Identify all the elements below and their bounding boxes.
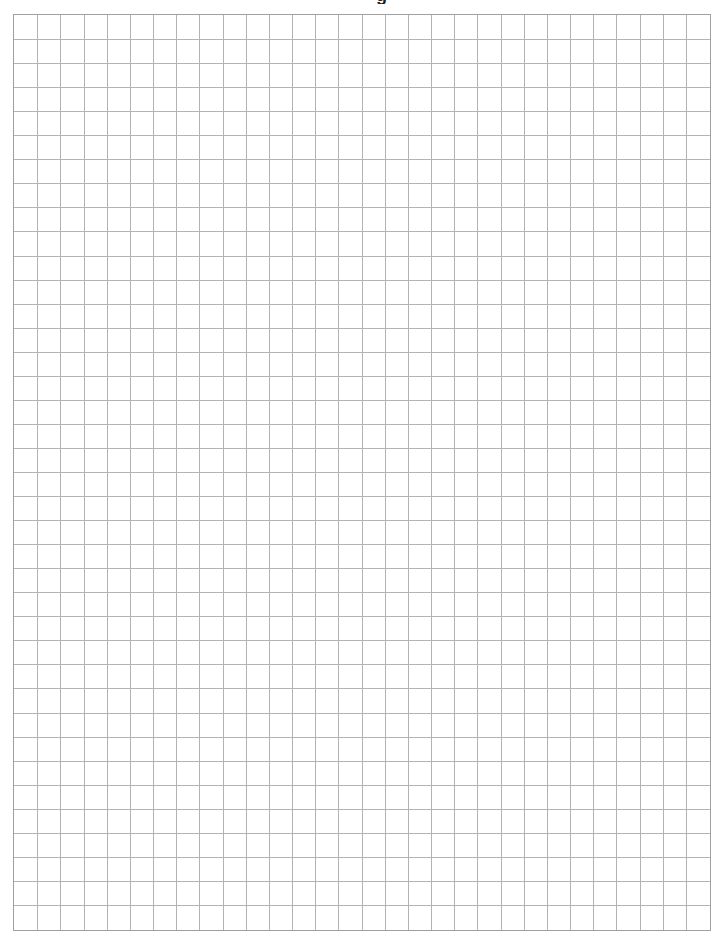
grid-horizontal-line: [14, 159, 710, 160]
grid-horizontal-line: [14, 833, 710, 834]
grid-horizontal-line: [14, 111, 710, 112]
grid-horizontal-line: [14, 568, 710, 569]
grid-horizontal-line: [14, 400, 710, 401]
grid-horizontal-line: [14, 785, 710, 786]
grid-horizontal-line: [14, 713, 710, 714]
grid-horizontal-line: [14, 640, 710, 641]
grid-horizontal-line: [14, 520, 710, 521]
grid-horizontal-line: [14, 664, 710, 665]
grid-horizontal-line: [14, 544, 710, 545]
grid-horizontal-line: [14, 87, 710, 88]
grid-horizontal-line: [14, 376, 710, 377]
grid-horizontal-line: [14, 737, 710, 738]
grid-horizontal-line: [14, 256, 710, 257]
grid-horizontal-line: [14, 472, 710, 473]
grid-horizontal-line: [14, 39, 710, 40]
grid-horizontal-line: [14, 424, 710, 425]
grid-horizontal-line: [14, 857, 710, 858]
grid-horizontal-line: [14, 592, 710, 593]
grid-horizontal-line: [14, 761, 710, 762]
grid-horizontal-line: [14, 207, 710, 208]
cropped-title-fragment: g: [0, 0, 727, 4]
grid-horizontal-line: [14, 183, 710, 184]
grid-horizontal-line: [14, 688, 710, 689]
grid-horizontal-line: [14, 352, 710, 353]
grid-horizontal-line: [14, 496, 710, 497]
grid-horizontal-line: [14, 231, 710, 232]
grid-horizontal-line: [14, 63, 710, 64]
grid-horizontal-line: [14, 905, 710, 906]
grid-horizontal-line: [14, 135, 710, 136]
grid-horizontal-line: [14, 616, 710, 617]
grid-horizontal-line: [14, 328, 710, 329]
grid-horizontal-line: [14, 280, 710, 281]
title-descender: g: [376, 0, 387, 4]
grid-horizontal-line: [14, 809, 710, 810]
grid-horizontal-line: [14, 448, 710, 449]
grid-horizontal-line: [14, 304, 710, 305]
grid-horizontal-line: [14, 881, 710, 882]
graph-paper-grid: [13, 14, 711, 931]
